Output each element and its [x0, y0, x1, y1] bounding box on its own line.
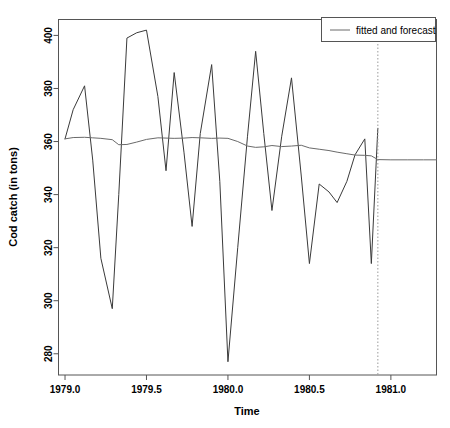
legend-label-fitted-and-forecast: fitted and forecast — [356, 25, 436, 36]
plot-frame — [59, 20, 437, 376]
x-axis-title: Time — [234, 405, 259, 417]
y-tick-label: 380 — [43, 80, 54, 97]
series-line-observed — [65, 30, 378, 362]
x-tick-label: 1980.5 — [294, 384, 325, 395]
y-tick-label: 340 — [43, 186, 54, 203]
y-axis-title: Cod catch (in tons) — [7, 147, 19, 247]
x-tick-label: 1979.0 — [50, 384, 81, 395]
y-tick-label: 300 — [43, 292, 54, 309]
y-tick-label: 360 — [43, 133, 54, 150]
y-tick-label: 320 — [43, 239, 54, 256]
x-tick-label: 1980.0 — [213, 384, 244, 395]
x-axis-ticks: 1979.01979.51980.01980.51981.0 — [50, 375, 407, 395]
chart-figure: 280300320340360380400 1979.01979.51980.0… — [0, 0, 450, 428]
series-layer — [65, 30, 436, 362]
x-tick-label: 1979.5 — [131, 384, 162, 395]
y-tick-label: 400 — [43, 27, 54, 44]
y-tick-label: 280 — [43, 345, 54, 362]
plot-border — [59, 20, 437, 376]
y-axis-ticks: 280300320340360380400 — [43, 27, 58, 362]
cod-catch-forecast-chart: 280300320340360380400 1979.01979.51980.0… — [0, 0, 450, 428]
chart-legend: fitted and forecast — [322, 18, 436, 42]
x-tick-label: 1981.0 — [376, 384, 407, 395]
